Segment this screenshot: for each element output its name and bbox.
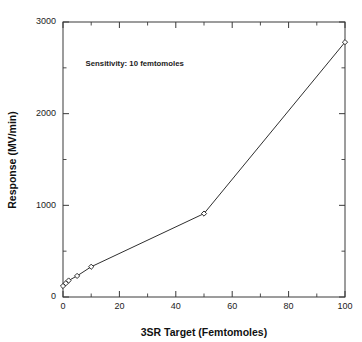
x-tick-label: 80 xyxy=(284,301,294,311)
data-series xyxy=(63,42,345,286)
y-tick-label: 3000 xyxy=(36,16,56,26)
x-tick-labels: 020406080100 xyxy=(60,301,352,311)
line-chart: 020406080100 0100020003000 Sensitivity: … xyxy=(0,0,362,342)
data-point-marker xyxy=(89,264,94,269)
y-tick-label: 1000 xyxy=(36,200,56,210)
x-tick-label: 20 xyxy=(114,301,124,311)
chart-annotations: Sensitivity: 10 femtomoles xyxy=(86,59,185,68)
y-tick-labels: 0100020003000 xyxy=(36,16,56,301)
data-markers xyxy=(60,40,347,289)
y-tick-label: 0 xyxy=(51,291,56,301)
x-tick-label: 0 xyxy=(60,301,65,311)
x-tick-label: 100 xyxy=(337,301,352,311)
x-axis-title: 3SR Target (Femtomoles) xyxy=(141,326,267,338)
data-point-marker xyxy=(75,273,80,278)
x-tick-label: 60 xyxy=(227,301,237,311)
y-axis-title: Response (MV/min) xyxy=(6,111,18,208)
series-line xyxy=(63,42,345,286)
x-tick-label: 40 xyxy=(171,301,181,311)
y-tick-label: 2000 xyxy=(36,108,56,118)
sensitivity-annotation: Sensitivity: 10 femtomoles xyxy=(86,59,185,68)
chart-figure: 020406080100 0100020003000 Sensitivity: … xyxy=(0,0,362,342)
